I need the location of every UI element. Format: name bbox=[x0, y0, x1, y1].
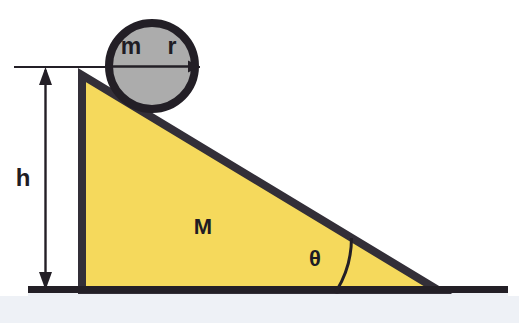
mass-small-label: m bbox=[121, 33, 141, 59]
radius-label: r bbox=[168, 33, 177, 59]
diagram-canvas: m r M h θ bbox=[0, 0, 519, 323]
angle-label: θ bbox=[309, 246, 321, 271]
inclined-plane-diagram: m r M h θ bbox=[0, 0, 519, 323]
angle-arc-end-dot bbox=[334, 288, 339, 293]
mass-large-label: M bbox=[194, 214, 212, 239]
height-label: h bbox=[16, 164, 31, 191]
ground-area-fade bbox=[0, 296, 519, 323]
height-arrow-head-top bbox=[39, 67, 52, 85]
